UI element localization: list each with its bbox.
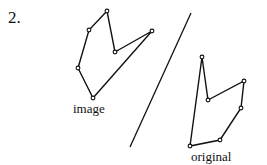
original-polygon bbox=[190, 57, 244, 146]
vertex-point bbox=[239, 106, 243, 110]
vertex-point bbox=[87, 28, 91, 32]
vertex-point bbox=[242, 79, 246, 83]
reflection-line bbox=[130, 13, 191, 147]
vertex-point bbox=[188, 144, 192, 148]
original-vertices bbox=[188, 55, 246, 148]
image-polygon bbox=[78, 11, 152, 98]
reflection-diagram bbox=[0, 0, 267, 165]
image-label: image bbox=[73, 101, 105, 117]
vertex-point bbox=[113, 50, 117, 54]
vertex-point bbox=[76, 66, 80, 70]
vertex-point bbox=[91, 96, 95, 100]
vertex-point bbox=[218, 138, 222, 142]
vertex-point bbox=[200, 55, 204, 59]
vertex-point bbox=[105, 9, 109, 13]
vertex-point bbox=[206, 98, 210, 102]
original-label: original bbox=[191, 149, 231, 165]
problem-number: 2. bbox=[8, 8, 21, 28]
diagram: 2. image original bbox=[0, 0, 267, 165]
vertex-point bbox=[150, 29, 154, 33]
